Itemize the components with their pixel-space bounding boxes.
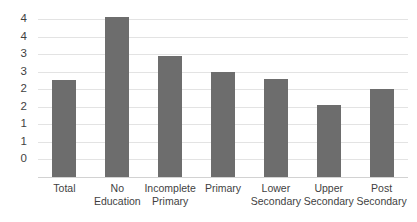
bar-slot: [144, 19, 197, 177]
bar: [158, 56, 182, 177]
bar-slot: [197, 19, 250, 177]
bar-slot: [249, 19, 302, 177]
bar-slot: [38, 19, 91, 177]
plot-area: [38, 19, 408, 177]
y-axis-tick-label: 4: [21, 13, 27, 25]
y-axis: 443322110: [0, 19, 34, 177]
bar-slot: [302, 19, 355, 177]
x-axis-tick-label: Lower Secondary: [249, 180, 302, 222]
x-axis: TotalNo EducationIncomplete PrimaryPrima…: [38, 180, 408, 222]
x-axis-tick-label: Primary: [197, 180, 250, 222]
x-axis-tick-label: Incomplete Primary: [144, 180, 197, 222]
y-axis-tick-label: 4: [21, 31, 27, 43]
bar: [370, 89, 394, 177]
y-axis-tick-label: 2: [21, 101, 27, 113]
x-axis-tick-label: Post Secondary: [355, 180, 408, 222]
bar: [264, 79, 288, 177]
x-axis-tick-label: Total: [38, 180, 91, 222]
bar: [105, 17, 129, 177]
bar-slot: [91, 19, 144, 177]
y-axis-tick-label: 3: [21, 66, 27, 78]
bar: [211, 72, 235, 177]
axis-baseline: [38, 177, 408, 178]
y-axis-tick-label: 2: [21, 83, 27, 95]
y-axis-tick-label: 3: [21, 48, 27, 60]
bar-slot: [355, 19, 408, 177]
y-axis-tick-label: 0: [21, 154, 27, 166]
y-axis-tick-label: 1: [21, 119, 27, 131]
x-axis-tick-label: No Education: [91, 180, 144, 222]
bar: [52, 80, 76, 177]
bar-series: [38, 19, 408, 177]
x-axis-tick-label: Upper Secondary: [302, 180, 355, 222]
bar: [317, 105, 341, 177]
y-axis-tick-label: 1: [21, 136, 27, 148]
bar-chart: 443322110 TotalNo EducationIncomplete Pr…: [0, 0, 417, 222]
